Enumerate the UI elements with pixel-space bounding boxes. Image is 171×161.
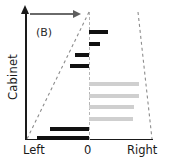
x-tick-label-left: Left <box>23 143 45 157</box>
bar-dark-10 <box>37 136 89 140</box>
bar-dark-4 <box>70 64 89 68</box>
y-axis-title: Cabinet <box>6 45 20 109</box>
bar-light-7 <box>89 105 134 109</box>
rightward-arrow-shaft <box>30 13 74 14</box>
diverging-bar-chart-panel-b: Cabinet (B) Left 0 Right <box>0 0 171 161</box>
bar-light-8 <box>89 117 133 121</box>
bar-dark-1 <box>89 30 108 34</box>
bar-dark-2 <box>89 42 100 46</box>
rightward-arrow-icon <box>73 10 81 18</box>
bar-dark-3 <box>75 53 89 57</box>
y-axis-arrowhead-icon <box>21 5 29 14</box>
bar-light-6 <box>89 94 139 98</box>
bar-dark-9 <box>50 127 89 131</box>
bar-light-5 <box>89 82 139 86</box>
x-tick-label-zero: 0 <box>84 143 91 157</box>
y-axis-line <box>25 12 27 140</box>
x-tick-label-right: Right <box>127 143 157 157</box>
panel-label: (B) <box>36 26 52 39</box>
envelope-right-dashed-line <box>138 12 152 139</box>
